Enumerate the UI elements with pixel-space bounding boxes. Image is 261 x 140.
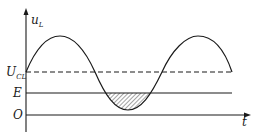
y-axis: [24, 8, 29, 132]
y-axis-label: uL: [31, 13, 44, 29]
ucl-label: UCL: [6, 65, 26, 81]
y-axis-arrow-icon: [24, 8, 29, 15]
x-axis: [26, 113, 251, 118]
waveform-diagram: uL UCL E O t: [0, 0, 261, 140]
origin-label: O: [13, 108, 23, 122]
e-label: E: [12, 86, 22, 100]
x-axis-label: t: [242, 115, 247, 129]
